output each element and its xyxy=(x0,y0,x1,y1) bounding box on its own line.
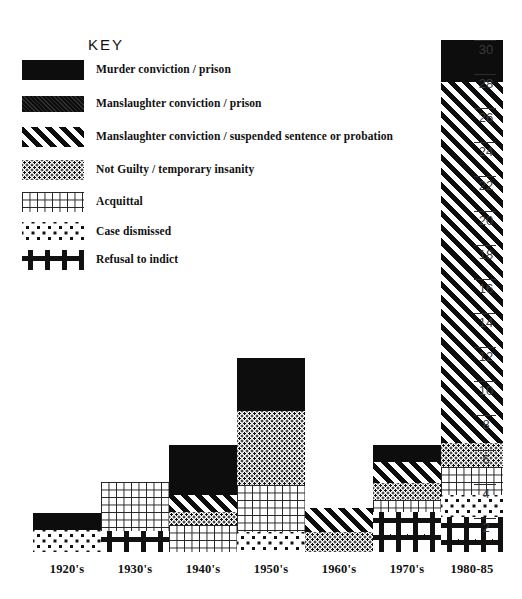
y-tick-label-14: 14 xyxy=(474,315,498,330)
bar-segment-plus xyxy=(373,512,441,552)
y-tick-label-10: 10 xyxy=(474,383,498,398)
y-tick-label-8: 8 xyxy=(474,417,498,432)
bar-segment-diag xyxy=(169,495,237,512)
y-tick-20 xyxy=(474,211,496,212)
y-tick-4 xyxy=(474,484,496,485)
bar-chart-plot: 1920's1930's1940's1950's1960's1970's1980… xyxy=(0,0,522,599)
y-tick-label-30: 30 xyxy=(474,42,498,57)
bar-segment-grid xyxy=(169,525,237,552)
bar-segment-finedot xyxy=(305,532,373,552)
bar-segment-solid xyxy=(373,445,441,462)
y-tick-2 xyxy=(474,518,496,519)
bar-segment-coarsedot xyxy=(237,532,305,552)
y-axis: 24681012141618202224262830 xyxy=(470,0,522,599)
y-tick-label-12: 12 xyxy=(474,349,498,364)
bar-1940s xyxy=(169,445,237,552)
y-tick-label-16: 16 xyxy=(474,281,498,296)
y-tick-24 xyxy=(474,142,496,143)
y-tick-8 xyxy=(474,415,496,416)
y-tick-label-6: 6 xyxy=(474,452,498,467)
y-tick-14 xyxy=(474,313,496,314)
y-tick-label-26: 26 xyxy=(474,110,498,125)
y-tick-16 xyxy=(474,279,496,280)
bar-1920s xyxy=(33,513,101,552)
y-tick-12 xyxy=(474,347,496,348)
y-tick-28 xyxy=(474,74,496,75)
y-tick-30 xyxy=(474,40,496,41)
bar-segment-coarsedot xyxy=(33,530,101,552)
y-tick-6 xyxy=(474,450,496,451)
bar-1960s xyxy=(305,508,373,552)
y-tick-label-4: 4 xyxy=(474,486,498,501)
y-tick-label-2: 2 xyxy=(474,520,498,535)
bar-segment-solid xyxy=(169,445,237,495)
bar-1970s xyxy=(373,445,441,552)
bar-segment-solid xyxy=(33,513,101,530)
bar-segment-grid xyxy=(373,500,441,512)
y-tick-18 xyxy=(474,245,496,246)
y-tick-label-20: 20 xyxy=(474,213,498,228)
bar-segment-finedot xyxy=(169,512,237,525)
y-tick-label-24: 24 xyxy=(474,144,498,159)
bar-segment-solid xyxy=(237,358,305,411)
bar-1930s xyxy=(101,482,169,552)
bar-segment-finedot xyxy=(237,411,305,485)
bar-segment-plus xyxy=(101,531,169,552)
bar-segment-grid xyxy=(237,485,305,532)
y-tick-26 xyxy=(474,108,496,109)
y-tick-22 xyxy=(474,176,496,177)
bar-segment-grid xyxy=(101,482,169,531)
bar-segment-finedot xyxy=(373,483,441,500)
y-tick-label-22: 22 xyxy=(474,178,498,193)
y-tick-label-28: 28 xyxy=(474,76,498,91)
y-tick-10 xyxy=(474,381,496,382)
bar-1950s xyxy=(237,358,305,552)
y-tick-label-18: 18 xyxy=(474,247,498,262)
bar-segment-diag xyxy=(373,462,441,483)
bar-segment-diag xyxy=(305,508,373,532)
